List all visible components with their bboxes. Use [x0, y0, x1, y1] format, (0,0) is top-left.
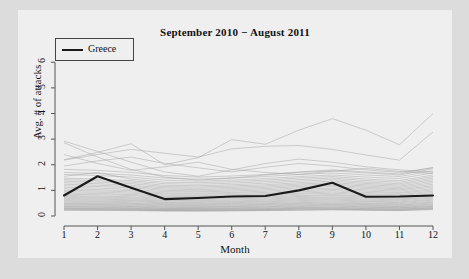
y-tick-label: 2 — [36, 155, 47, 171]
x-tick-label: 8 — [289, 229, 309, 240]
y-tick-label: 6 — [36, 53, 47, 69]
x-tick-label: 10 — [356, 229, 376, 240]
x-tick-label: 1 — [54, 229, 74, 240]
legend[interactable]: Greece — [55, 38, 134, 61]
chart-panel: September 2010 − August 2011 Avg. # of a… — [18, 10, 452, 258]
background-series-line — [64, 132, 433, 160]
x-tick-label: 3 — [121, 229, 141, 240]
x-tick-label: 4 — [155, 229, 175, 240]
figure-container: September 2010 − August 2011 Avg. # of a… — [0, 0, 469, 279]
x-tick-label: 5 — [188, 229, 208, 240]
x-tick-label: 6 — [222, 229, 242, 240]
y-tick-label: 4 — [36, 104, 47, 120]
y-tick-label: 3 — [36, 130, 47, 146]
y-tick-label: 0 — [36, 207, 47, 223]
x-tick-label: 9 — [322, 229, 342, 240]
y-tick-label: 1 — [36, 181, 47, 197]
x-tick-label: 12 — [423, 229, 443, 240]
y-tick-label: 5 — [36, 78, 47, 94]
x-tick-label: 7 — [255, 229, 275, 240]
legend-line-swatch — [62, 49, 83, 51]
x-tick-label: 11 — [389, 229, 409, 240]
legend-label-greece: Greece — [88, 43, 116, 54]
x-tick-label: 2 — [88, 229, 108, 240]
